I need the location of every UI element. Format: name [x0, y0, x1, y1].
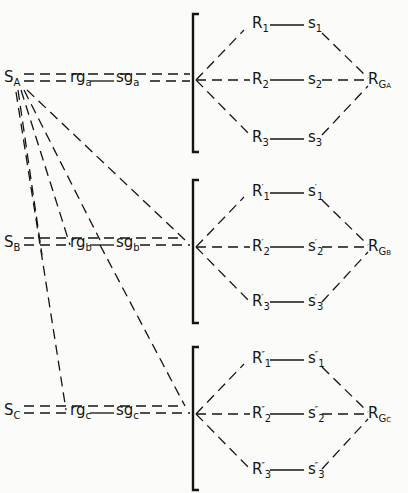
bracket-c	[193, 347, 199, 490]
result-a-label: RGA	[368, 72, 391, 90]
node-s2: s2	[308, 72, 322, 90]
source-a-label: SA	[4, 70, 20, 88]
node-r1-dprime: R″1	[252, 351, 271, 369]
result-c-label: RGC	[368, 406, 391, 424]
node-r1: R1	[252, 16, 269, 34]
node-s1-dprime: s″1	[308, 351, 325, 369]
rg-b-label: rgb	[70, 235, 92, 253]
node-r1-prime: R′1	[252, 184, 270, 202]
node-r3-prime: R′3	[252, 294, 270, 312]
sg-c-label: sgc	[116, 403, 139, 421]
rg-a-label: rga	[70, 70, 92, 88]
node-s1: s1	[308, 16, 322, 34]
node-s2-prime: s′2	[308, 239, 323, 257]
node-s1-prime: s′1	[308, 184, 323, 202]
node-r3: R3	[252, 130, 269, 148]
node-s2-dprime: s″2	[308, 406, 325, 424]
source-b-label: SB	[4, 235, 20, 253]
node-r2: R2	[252, 72, 269, 90]
node-s3-prime: s′3	[308, 294, 323, 312]
node-r2-dprime: R″2	[252, 406, 271, 424]
sg-a-label: sga	[116, 70, 139, 88]
node-r3-dprime: R″3	[252, 462, 271, 480]
node-s3: s3	[308, 130, 322, 148]
source-c-label: SC	[4, 403, 21, 421]
sg-b-label: sgb	[116, 235, 140, 253]
diagram-lines	[0, 0, 408, 493]
node-s3-dprime: s″3	[308, 462, 325, 480]
result-b-label: RGB	[368, 239, 391, 257]
rg-c-label: rgc	[70, 403, 91, 421]
node-r2-prime: R′2	[252, 239, 270, 257]
bracket-b	[193, 180, 199, 323]
